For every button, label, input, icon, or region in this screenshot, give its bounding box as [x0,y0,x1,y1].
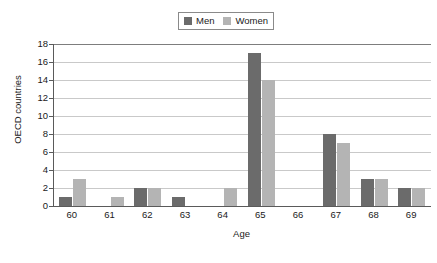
bar-women-age-64 [224,188,237,206]
bar-group-age-60 [54,44,92,206]
x-tick-label-61: 61 [91,209,129,221]
legend-label-women: Women [235,15,268,26]
y-tick-label-10: 10 [30,111,48,121]
y-axis-title: OECD countries [12,55,23,165]
bar-women-age-61 [111,197,124,206]
bar-men-age-67 [323,134,336,206]
x-tick-label-66: 66 [279,209,317,221]
bar-group-age-67 [318,44,356,206]
y-tick-label-6: 6 [30,147,48,157]
y-tick-label-2: 2 [30,183,48,193]
x-tick-label-69: 69 [392,209,430,221]
y-tick-label-14: 14 [30,75,48,85]
legend-entry-men: Men [184,15,214,26]
x-tick-label-62: 62 [128,209,166,221]
bar-men-age-65 [248,53,261,206]
y-tick-label-0: 0 [30,201,48,211]
y-tick-label-18: 18 [30,39,48,49]
bar-men-age-63 [172,197,185,206]
chart-legend: Men Women [178,12,274,30]
y-axis-tick-labels: 024681012141618 [28,44,48,206]
bar-women-age-62 [148,188,161,206]
x-tick-label-68: 68 [355,209,393,221]
bar-women-age-60 [73,179,86,206]
bar-men-age-62 [134,188,147,206]
y-tick-label-16: 16 [30,57,48,67]
x-tick-label-60: 60 [53,209,91,221]
bar-chart: Men Women 024681012141618 60616263646566… [0,0,437,263]
bar-women-age-67 [337,143,350,206]
bar-group-age-68 [356,44,394,206]
bar-men-age-68 [361,179,374,206]
bar-men-age-69 [398,188,411,206]
legend-label-men: Men [196,15,214,26]
bar-group-age-66 [280,44,318,206]
legend-entry-women: Women [223,15,268,26]
bar-group-age-65 [243,44,281,206]
bars-layer [54,44,431,206]
x-tick-label-67: 67 [317,209,355,221]
y-tick-label-12: 12 [30,93,48,103]
bar-women-age-68 [375,179,388,206]
bar-women-age-69 [412,188,425,206]
bar-group-age-61 [92,44,130,206]
bar-group-age-63 [167,44,205,206]
bar-group-age-62 [129,44,167,206]
x-axis-tick-labels: 60616263646566676869 [53,209,430,223]
legend-swatch-women [223,17,231,25]
x-axis-title: Age [53,228,430,239]
bar-group-age-64 [205,44,243,206]
y-tick-label-4: 4 [30,165,48,175]
y-tick-label-8: 8 [30,129,48,139]
bar-group-age-69 [393,44,431,206]
legend-swatch-men [184,17,192,25]
bar-women-age-65 [262,80,275,206]
bar-men-age-60 [59,197,72,206]
x-tick-label-63: 63 [166,209,204,221]
x-tick-label-64: 64 [204,209,242,221]
x-tick-label-65: 65 [242,209,280,221]
plot-area [53,44,431,207]
